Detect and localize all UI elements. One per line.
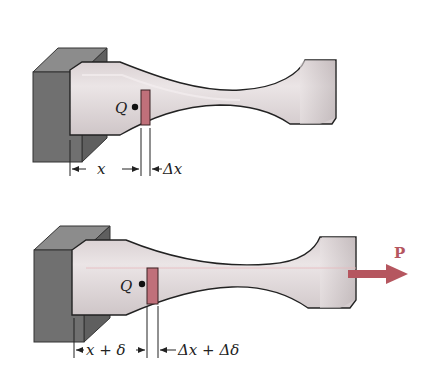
element-dx-deformed (147, 268, 158, 304)
point-q-label: Q (115, 99, 127, 117)
load-p-label: P (394, 244, 405, 262)
dim-x-label: x (97, 160, 106, 178)
specimen-bar (70, 60, 336, 135)
dim-dx-label: Δx (162, 160, 183, 178)
specimen-bar-stretched (72, 237, 356, 315)
dim-dx-ddelta-label: Δx + Δδ (177, 341, 239, 359)
point-q-dot (132, 104, 138, 110)
point-q-label: Q (120, 277, 132, 295)
bar-elongation-diagram: Q x Δx Q (0, 0, 437, 386)
dim-x-delta-label: x + δ (86, 341, 126, 359)
top-panel: Q x Δx (33, 48, 336, 178)
load-arrow-p (348, 264, 408, 284)
bottom-panel: Q P x + δ Δx + Δδ (34, 226, 408, 359)
point-q-dot (139, 281, 145, 287)
element-dx (141, 90, 150, 125)
